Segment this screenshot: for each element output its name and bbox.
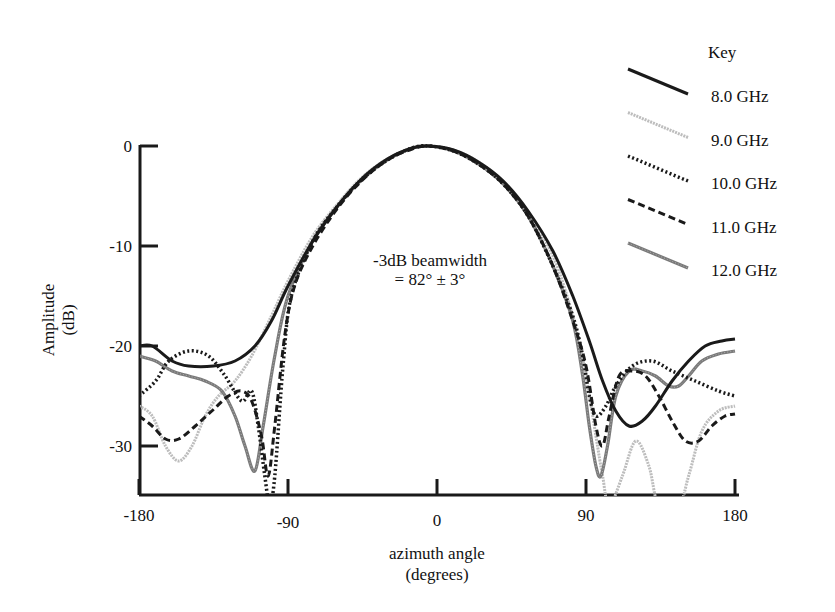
legend-item: 8.0 GHz <box>628 69 769 106</box>
series-group <box>139 146 735 511</box>
x-tick-label: 180 <box>722 506 748 525</box>
y-tick-label: -30 <box>109 437 132 456</box>
x-tick-label: -90 <box>277 513 300 532</box>
legend-label: 12.0 GHz <box>711 261 778 280</box>
axes <box>139 145 739 495</box>
legend-item: 11.0 GHz <box>628 200 777 237</box>
y-tick-label: -20 <box>109 337 132 356</box>
x-tick-label: 0 <box>433 511 442 530</box>
legend-item: 9.0 GHz <box>628 113 769 150</box>
legend-item: 12.0 GHz <box>628 243 778 280</box>
series-12-0-ghzghz-line <box>139 146 735 477</box>
legend-label: 8.0 GHz <box>711 87 769 106</box>
legend-item: 10.0 GHz <box>628 156 778 193</box>
series-10-0-ghzghz-line <box>139 146 735 506</box>
legend-label: 9.0 GHz <box>711 131 769 150</box>
legend-swatch <box>628 113 688 138</box>
series-11-0-ghzghz-line <box>139 146 735 476</box>
legend: Key 8.0 GHz9.0 GHz10.0 GHz11.0 GHz12.0 G… <box>628 43 778 280</box>
legend-label: 10.0 GHz <box>711 174 778 193</box>
legend-title: Key <box>708 43 737 62</box>
y-tick-label: 0 <box>124 137 133 156</box>
y-axis-label: Amplitude <box>39 284 58 357</box>
legend-label: 11.0 GHz <box>711 218 777 237</box>
legend-swatch <box>628 200 688 225</box>
legend-swatch <box>628 69 688 94</box>
x-axis-label: azimuth angle <box>389 544 485 563</box>
y-ticks: 0-10-20-30 <box>109 137 158 456</box>
x-axis-unit: (degrees) <box>405 565 468 584</box>
x-tick-label: 90 <box>578 506 595 525</box>
beamwidth-annotation-line1: -3dB beamwidth <box>373 251 487 270</box>
y-axis-unit: (dB) <box>59 304 78 335</box>
beamwidth-annotation-line2: = 82° ± 3° <box>395 270 466 289</box>
series-9-0-ghzghz-line <box>139 146 735 511</box>
y-tick-label: -10 <box>109 237 132 256</box>
legend-swatch <box>628 156 688 181</box>
beam-pattern-chart: 0-10-20-30 -180-90090180 azimuth angle (… <box>0 0 835 612</box>
x-tick-label: -180 <box>123 506 154 525</box>
